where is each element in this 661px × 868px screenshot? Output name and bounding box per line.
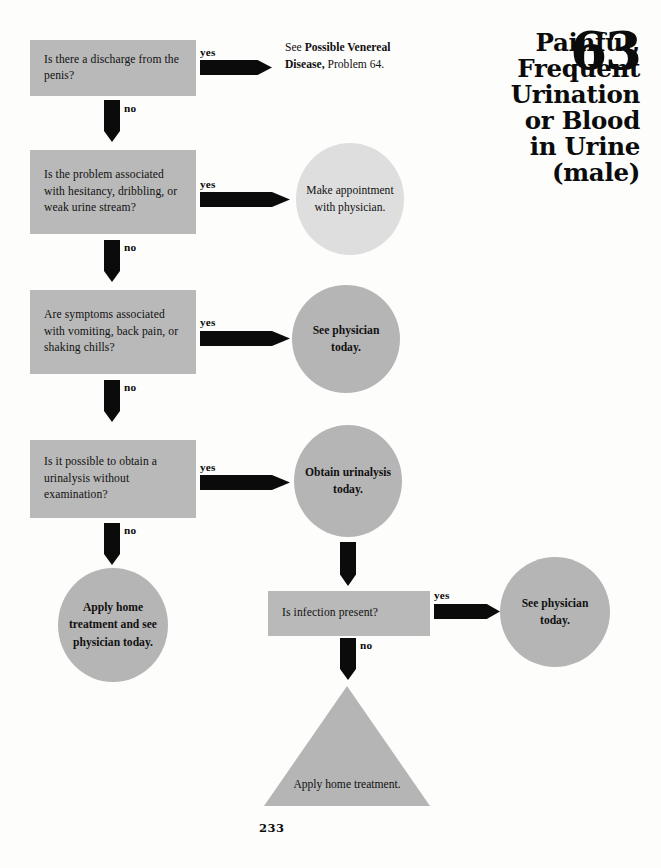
question-box-hesitancy[interactable]: Is the problem associated with hesitancy… bbox=[30, 150, 196, 234]
outcome-circle-make-appointment[interactable]: Make appointment with physician. bbox=[296, 143, 404, 255]
arrow-no-q3 bbox=[104, 380, 120, 422]
arrow-yes-q2 bbox=[200, 192, 290, 207]
arrow-no-q1 bbox=[104, 100, 120, 142]
edge-label-yes-q3: yes bbox=[200, 316, 216, 328]
edge-label-no-q5: no bbox=[360, 639, 372, 651]
outcome-text: Make appointment with physician. bbox=[296, 182, 404, 216]
arrow-yes-q1 bbox=[200, 60, 272, 75]
outcome-circle-obtain-urinalysis[interactable]: Obtain urinalysis today. bbox=[294, 425, 402, 537]
edge-label-no-q1: no bbox=[124, 102, 136, 114]
referral-prefix: See bbox=[285, 41, 305, 54]
edge-label-yes-q1: yes bbox=[200, 46, 216, 58]
outcome-circle-home-treatment-and-physician[interactable]: Apply home treatment and see physician t… bbox=[58, 568, 168, 682]
edge-label-yes-q4: yes bbox=[200, 461, 216, 473]
question-text: Is it possible to obtain a urinalysis wi… bbox=[30, 454, 196, 503]
flowchart-page: Painful, Frequent Urination or Blood in … bbox=[0, 0, 661, 868]
arrow-urinalysis-to-infection bbox=[340, 542, 356, 586]
question-box-vomiting[interactable]: Are symptoms associated with vomiting, b… bbox=[30, 290, 196, 374]
arrow-yes-q5 bbox=[434, 604, 500, 619]
arrow-yes-q3 bbox=[200, 331, 290, 346]
outcome-circle-see-physician-today-1[interactable]: See physician today. bbox=[292, 285, 400, 393]
question-box-infection[interactable]: Is infection present? bbox=[268, 591, 430, 636]
edge-label-no-q4: no bbox=[124, 524, 136, 536]
arrow-no-q2 bbox=[104, 240, 120, 282]
question-text: Is there a discharge from the penis? bbox=[30, 52, 196, 85]
question-box-urinalysis[interactable]: Is it possible to obtain a urinalysis wi… bbox=[30, 440, 196, 518]
question-box-discharge[interactable]: Is there a discharge from the penis? bbox=[30, 40, 196, 96]
outcome-triangle-home-treatment[interactable]: Apply home treatment. bbox=[264, 686, 430, 806]
referral-note: See Possible Venereal Disease, Problem 6… bbox=[285, 40, 410, 73]
outcome-text: Obtain urinalysis today. bbox=[294, 464, 402, 498]
question-text: Are symptoms associated with vomiting, b… bbox=[30, 307, 196, 356]
title-line-3: Urination bbox=[440, 82, 640, 108]
title-line-6: (male) bbox=[440, 160, 640, 186]
title-line-4: or Blood bbox=[440, 108, 640, 134]
edge-label-no-q2: no bbox=[124, 241, 136, 253]
page-number: 233 bbox=[259, 821, 285, 835]
arrow-no-q5 bbox=[340, 638, 356, 680]
outcome-circle-see-physician-today-2[interactable]: See physician today. bbox=[500, 557, 610, 667]
problem-number: 63 bbox=[570, 24, 640, 77]
arrow-no-q4 bbox=[104, 523, 120, 565]
title-line-5: in Urine bbox=[440, 134, 640, 160]
outcome-text: Apply home treatment. bbox=[264, 777, 430, 794]
page-title-block: Painful, Frequent Urination or Blood in … bbox=[440, 30, 640, 186]
edge-label-yes-q2: yes bbox=[200, 178, 216, 190]
outcome-text: See physician today. bbox=[292, 322, 400, 356]
outcome-text: See physician today. bbox=[500, 595, 610, 629]
edge-label-yes-q5: yes bbox=[434, 589, 450, 601]
question-text: Is the problem associated with hesitancy… bbox=[30, 167, 196, 216]
question-text: Is infection present? bbox=[268, 605, 388, 621]
referral-suffix: Problem 64. bbox=[325, 58, 385, 71]
edge-label-no-q3: no bbox=[124, 381, 136, 393]
outcome-text: Apply home treatment and see physician t… bbox=[58, 599, 168, 650]
arrow-yes-q4 bbox=[200, 475, 290, 490]
